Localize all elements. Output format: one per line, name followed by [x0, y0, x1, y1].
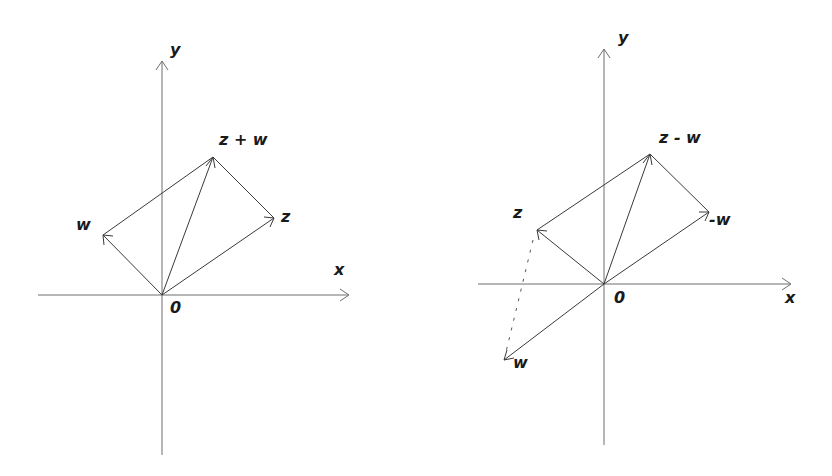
vector-difference: [604, 154, 650, 284]
parallelogram-side-top: [103, 157, 213, 235]
parallelogram-side-right: [213, 157, 274, 218]
label-difference: z - w: [659, 130, 701, 146]
label-y-axis: y: [618, 30, 628, 46]
addition-diagram: [38, 61, 349, 455]
label-w: w: [76, 217, 91, 233]
vector-neg-w: [604, 212, 709, 284]
diagram-canvas: [0, 0, 832, 476]
parallelogram-side-top: [537, 154, 650, 230]
label-w: w: [513, 355, 528, 371]
label-x-axis: x: [334, 262, 344, 278]
vector-w: [103, 235, 162, 295]
label-y-axis: y: [170, 42, 180, 58]
dotted-connector-z-to-w: [506, 240, 533, 352]
vector-z: [162, 218, 274, 295]
label-origin: 0: [170, 300, 181, 316]
label-origin: 0: [614, 290, 625, 306]
label-z: z: [281, 209, 290, 225]
vector-w: [504, 284, 604, 360]
subtraction-diagram: [478, 49, 791, 445]
vector-z: [537, 230, 604, 284]
label-sum: z + w: [219, 132, 268, 148]
vector-sum: [162, 157, 213, 295]
label-z: z: [513, 205, 522, 221]
vector-diagrams: y x 0 z + w z w y x 0 z - w z -w w: [0, 0, 832, 476]
parallelogram-side-right: [650, 154, 709, 212]
label-neg-w: -w: [709, 212, 730, 228]
label-x-axis: x: [785, 290, 795, 306]
